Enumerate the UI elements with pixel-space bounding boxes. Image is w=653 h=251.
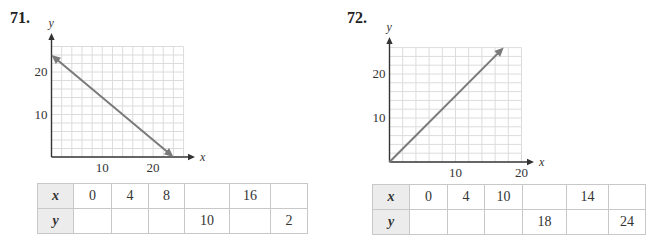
table-cell [230,209,271,234]
x-axis-label: x [538,155,545,169]
y-axis-arrow-icon [386,37,392,44]
table-cell [74,209,112,234]
table-cell [523,185,567,210]
x-tick-label: 20 [515,165,528,180]
x-tick-label: 10 [449,165,462,180]
table-cell [448,210,485,235]
y-tick-label: 10 [373,110,386,125]
table-cell [609,185,646,210]
y-axis-label: y [386,20,393,34]
table-cell [271,184,308,209]
table-row-y: y 10 2 [38,209,308,234]
xy-table-71: x 0 4 8 16 y 10 2 [37,183,308,234]
table-cell: 0 [410,185,448,210]
table-cell: 4 [448,185,485,210]
table-cell: 18 [523,210,567,235]
table-cell: 10 [185,209,230,234]
table-cell: 8 [149,184,185,209]
y-tick-label: 20 [373,66,386,81]
table-row-y: y 18 24 [373,210,646,235]
table-cell [567,210,609,235]
table-cell [185,184,230,209]
table-cell: 0 [74,184,112,209]
table-cell: 16 [230,184,271,209]
table-cell [112,209,149,234]
xy-table-72: x 0 4 10 14 y 18 24 [372,184,646,235]
table-cell: 4 [112,184,149,209]
row-label-y: y [38,209,74,234]
series-line [390,51,501,162]
table-cell: 2 [271,209,308,234]
table-row-x: x 0 4 10 14 [373,185,646,210]
table-cell: 10 [485,185,523,210]
table-cell: 14 [567,185,609,210]
table-cell: 24 [609,210,646,235]
table-cell [149,209,185,234]
row-label-x: x [38,184,74,209]
row-label-y: y [373,210,410,235]
table-cell [485,210,523,235]
table-cell [410,210,448,235]
table-row-x: x 0 4 8 16 [38,184,308,209]
row-label-x: x [373,185,410,210]
x-axis-arrow-icon [527,159,534,165]
